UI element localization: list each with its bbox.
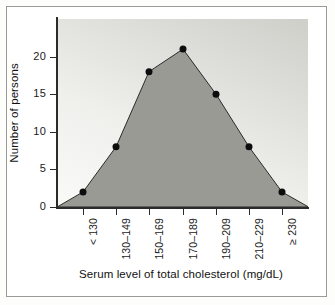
x-axis-tick-label: ≥ 230 [286, 218, 298, 245]
x-axis-tick [149, 209, 150, 215]
x-axis-tick-label: 130–149 [120, 218, 132, 260]
y-axis-tick-label: 5 [40, 162, 46, 174]
x-axis-tick-label: 210–229 [253, 218, 265, 260]
data-point-marker [213, 91, 220, 98]
y-axis-title: Number of persons [8, 19, 22, 207]
y-axis-tick-label: 10 [33, 125, 46, 137]
x-axis-tick-label: < 130 [87, 218, 99, 245]
x-axis-tick-label: 150–169 [153, 218, 165, 260]
chart-canvas [57, 19, 308, 207]
x-axis-tick [216, 209, 217, 215]
y-axis-tick [50, 169, 57, 170]
y-axis-tick-label: 15 [33, 87, 46, 99]
x-axis-title: Serum level of total cholesterol (mg/dL) [40, 268, 322, 280]
data-point-marker [180, 46, 187, 53]
data-point-marker [246, 143, 253, 150]
y-axis-line [56, 17, 58, 209]
x-axis-tick-label: 170–189 [187, 218, 199, 260]
area-series [57, 49, 308, 207]
x-axis-tick [249, 209, 250, 215]
x-axis-tick-label: 190–209 [220, 218, 232, 260]
x-axis-tick [83, 209, 84, 215]
x-axis-tick [116, 209, 117, 215]
y-axis-tick [50, 57, 57, 58]
y-axis-tick [50, 132, 57, 133]
y-axis-tick-label: 20 [33, 50, 46, 62]
y-axis-tick [50, 94, 57, 95]
figure-root: 05101520 < 130130–149150–169170–189190–2… [0, 0, 335, 305]
data-point-marker [113, 143, 120, 150]
x-axis-tick [282, 209, 283, 215]
data-point-marker [279, 188, 286, 195]
data-point-marker [80, 188, 87, 195]
x-axis-tick [183, 209, 184, 215]
plot-area [57, 19, 308, 207]
y-axis-tick [50, 207, 57, 208]
y-axis-tick-label: 0 [40, 200, 46, 212]
data-point-marker [146, 68, 153, 75]
